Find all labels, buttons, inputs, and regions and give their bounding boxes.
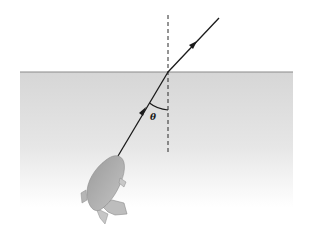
refraction-diagram: θ — [0, 0, 310, 239]
angle-theta-label: θ — [150, 112, 156, 122]
